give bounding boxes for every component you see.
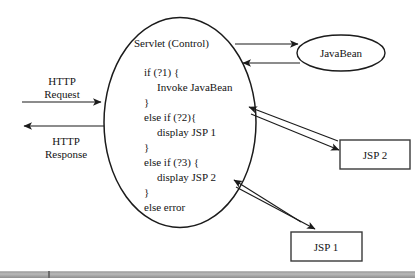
servlet-code-line-3: }: [144, 96, 149, 108]
bottom-scrollbar-thumb-tick[interactable]: [48, 271, 50, 278]
diagram-canvas: Servlet (Control) if (?1) { Invoke JavaB…: [0, 0, 415, 278]
servlet-code-line-2: Invoke JavaBean: [157, 81, 233, 93]
servlet-code-line-1: if (?1) {: [144, 66, 179, 79]
servlet-code-line-10: else error: [144, 201, 186, 213]
servlet-code-line-7: else if (?3) {: [144, 156, 199, 169]
servlet-to-jsp1-arrow[interactable]: [236, 187, 315, 229]
servlet-code-line-8: display JSP 2: [157, 171, 216, 183]
http-response-label-line1: HTTP: [52, 135, 80, 147]
javabean-label: JavaBean: [320, 47, 363, 59]
mvc-flow-diagram: Servlet (Control) if (?1) { Invoke JavaB…: [0, 0, 415, 278]
servlet-code-line-6: }: [144, 141, 149, 153]
jsp2-to-servlet-arrow[interactable]: [249, 107, 338, 141]
bottom-scrollbar[interactable]: [0, 269, 415, 278]
jsp2-label: JSP 2: [363, 149, 387, 161]
http-request-label-line2: Request: [44, 88, 79, 100]
servlet-code-line-5: display JSP 1: [157, 126, 216, 138]
servlet-code-line-4: else if (?2){: [144, 111, 196, 124]
servlet-code-line-9: }: [144, 186, 149, 198]
jsp1-label: JSP 1: [314, 241, 338, 253]
http-request-label-line1: HTTP: [48, 75, 76, 87]
servlet-to-jsp2-arrow[interactable]: [251, 114, 339, 150]
servlet-title: Servlet (Control): [134, 37, 209, 50]
http-response-label-line2: Response: [45, 148, 87, 160]
